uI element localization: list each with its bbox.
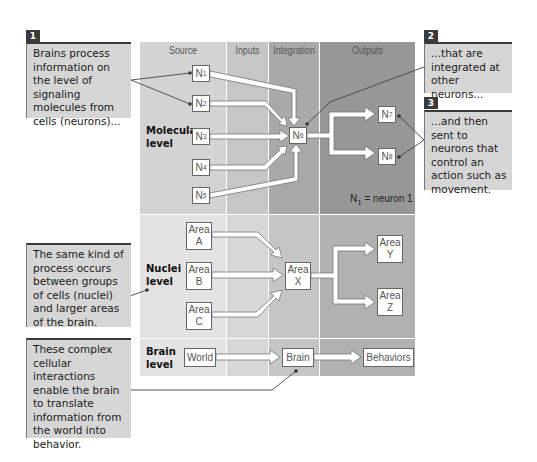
callout-5: These complex cellular interactions enab… [26, 338, 131, 438]
arrow-n5-n6 [210, 144, 302, 198]
arrow-n6-n7-n8 [307, 107, 375, 160]
arrow-area-x-y-z [311, 242, 375, 309]
arrow-n3-n6 [210, 130, 289, 142]
callout-1: Brains process information on the level … [26, 42, 131, 118]
node-area-y: AreaY [377, 235, 403, 263]
leader-callout-1-n2 [131, 80, 190, 104]
callout-2-number: 2 [424, 30, 438, 42]
leader-callout-1-n1 [131, 73, 190, 80]
node-area-x: AreaX [285, 262, 311, 290]
node-area-b: AreaB [186, 262, 212, 290]
node-area-a: AreaA [186, 222, 212, 250]
node-brain: Brain [282, 348, 314, 367]
node-behaviors: Behaviors [363, 348, 414, 367]
arrow-area-c-x [212, 290, 282, 317]
callout-3: ...and then sent to neurons that control… [424, 110, 512, 190]
arrow-n4-n6 [210, 146, 287, 170]
arrow-n1-n6 [210, 71, 300, 126]
callout-3-number: 3 [424, 97, 438, 109]
arrow-brain-behaviors [314, 350, 361, 364]
leader-callout-3-n8 [399, 140, 424, 157]
arrow-area-a-x [212, 232, 282, 258]
leader-callout-3-n7 [399, 116, 424, 140]
leader-callout-4-nuclei [130, 290, 147, 296]
arrow-n2-n6 [210, 101, 287, 126]
node-n1: N1 [192, 65, 210, 82]
node-n4: N4 [192, 159, 210, 176]
node-world: World [184, 348, 216, 367]
arrow-area-b-x [212, 268, 283, 282]
node-n6: N6 [289, 127, 307, 144]
legend-note: N1 = neuron 1 [350, 193, 413, 207]
node-area-c: AreaC [186, 302, 212, 330]
node-n3: N3 [192, 128, 210, 145]
callout-1-number: 1 [26, 30, 40, 42]
node-n8: N8 [378, 148, 396, 165]
leader-callout-5-brain [130, 371, 296, 390]
node-n7: N7 [378, 106, 396, 123]
arrow-world-brain [216, 350, 280, 364]
node-n2: N2 [192, 95, 210, 112]
node-n5: N5 [192, 187, 210, 204]
callout-2: ...that are integrated at other neurons.… [424, 42, 512, 93]
node-area-z: AreaZ [377, 288, 403, 316]
callout-4: The same kind of process occurs between … [26, 243, 131, 327]
